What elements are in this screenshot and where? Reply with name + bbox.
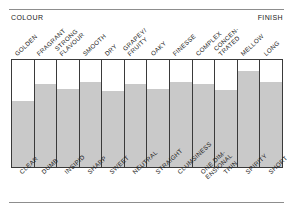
- bar-fill: [57, 89, 79, 167]
- bar-cell: [238, 60, 261, 167]
- bar-fill: [102, 91, 124, 167]
- top-tick-6: GRAPEY/FRUITY: [121, 26, 153, 57]
- tick-line-1: GOLDEN: [13, 32, 38, 56]
- tick-line-1: OAKY: [149, 39, 167, 57]
- top-tick-7: OAKY: [149, 39, 168, 57]
- plot-area: [11, 59, 283, 168]
- bar-fill: [125, 84, 147, 167]
- bar-cell: [57, 60, 80, 167]
- bar-cell: [12, 60, 35, 167]
- tick-line-1: DRY: [104, 42, 119, 57]
- axis-caption-finish: FINISH: [258, 14, 283, 21]
- bar-fill: [238, 71, 260, 167]
- bar-cell: [125, 60, 148, 167]
- top-tick-5: DRY: [104, 42, 119, 57]
- top-rule: [9, 9, 284, 10]
- bar-cell: [80, 60, 103, 167]
- top-tick-1: GOLDEN: [13, 32, 39, 57]
- bar-cell: [35, 60, 58, 167]
- bottom-rule: [9, 202, 284, 203]
- bar-cell: [102, 60, 125, 167]
- tick-line-1: FINESSE: [172, 32, 198, 57]
- bar-fill: [35, 84, 57, 167]
- whisky-profile-chart: COLOUR FINISH GOLDENFRAGRANTSTRONGFLAVOU…: [0, 0, 293, 215]
- axis-caption-colour: COLOUR: [11, 14, 43, 21]
- tick-line-1: LONG: [262, 39, 281, 57]
- top-tick-12: LONG: [262, 39, 281, 57]
- bar-cell: [260, 60, 282, 167]
- top-tick-8: FINESSE: [172, 32, 198, 57]
